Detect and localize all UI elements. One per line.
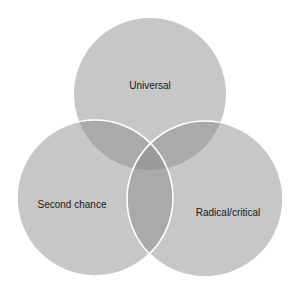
label-universal: Universal	[129, 80, 171, 91]
venn-circles	[17, 18, 283, 277]
venn-diagram: Universal Second chance Radical/critical	[0, 0, 298, 292]
label-radical-critical: Radical/critical	[196, 207, 260, 218]
label-second-chance: Second chance	[38, 199, 107, 210]
